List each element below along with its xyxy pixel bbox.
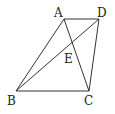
label-b: B: [7, 94, 16, 108]
segment-dc: [89, 19, 99, 91]
label-e: E: [64, 52, 73, 66]
label-a: A: [53, 6, 63, 20]
segment-db: [16, 19, 99, 91]
label-c: C: [84, 94, 93, 108]
geometry-diagram: A D B C E: [0, 0, 115, 114]
label-d: D: [97, 6, 107, 20]
segments: [16, 19, 99, 91]
labels: A D B C E: [7, 6, 107, 108]
